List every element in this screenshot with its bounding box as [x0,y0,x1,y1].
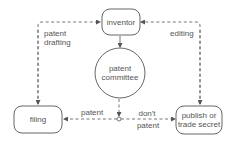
decision-junction [117,117,121,121]
edge-label-dont-patent-line1: don't [138,109,156,118]
edge-label-patent-drafting-line1: patent [44,29,67,38]
label-inventor: inventor [107,18,136,27]
label-committee-line1: patent [109,64,132,73]
edge-label-patent: patent [81,108,104,117]
label-publish-line2: trade secret [178,120,221,129]
label-filing: filing [30,115,46,124]
patent-process-diagram: inventor patent committee filing publish… [0,0,235,141]
label-publish-line1: publish or [182,111,217,120]
label-committee-line2: committee [102,73,139,82]
edge-label-dont-patent-line2: patent [137,121,160,130]
edge-label-editing: editing [170,29,194,38]
edge-label-patent-drafting-line2: drafting [44,38,71,47]
